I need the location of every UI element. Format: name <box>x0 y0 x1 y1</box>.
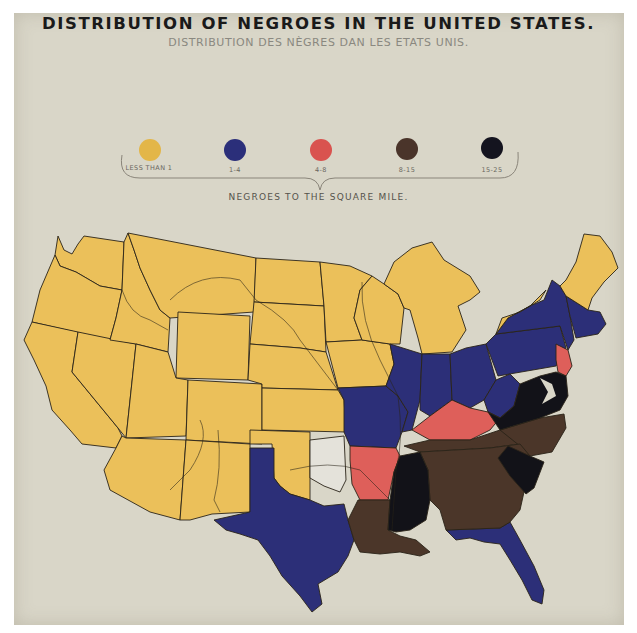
state-wyoming <box>176 312 250 380</box>
state-florida <box>446 522 544 604</box>
state-kansas <box>262 388 346 432</box>
state-arizona <box>104 436 186 520</box>
state-iowa <box>326 340 394 388</box>
state-indian-territory <box>310 436 346 492</box>
state-new-jersey <box>556 344 572 376</box>
state-north-dakota <box>254 258 324 306</box>
us-map <box>0 0 637 633</box>
state-new-mexico <box>180 440 250 520</box>
